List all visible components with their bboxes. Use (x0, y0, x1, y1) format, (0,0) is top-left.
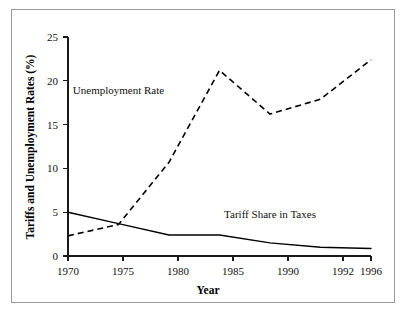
y-tick-label-0: 0 (53, 250, 59, 262)
y-tick-label-5: 5 (53, 206, 59, 218)
y-tick-label-15: 15 (47, 119, 59, 131)
x-axis-title: Year (197, 284, 220, 296)
y-tick-label-20: 20 (47, 75, 59, 87)
x-tick-label-1980: 1980 (167, 265, 190, 277)
y-axis-title: Tariffs and Unemployment Rates (%) (24, 54, 37, 239)
x-tick-label-1970: 1970 (57, 265, 80, 277)
x-tick-label-1996: 1996 (360, 265, 383, 277)
series-annotation-unemployment-rate: Unemployment Rate (73, 84, 164, 96)
y-tick-label-10: 10 (47, 162, 59, 174)
x-tick-label-1975: 1975 (112, 265, 135, 277)
x-tick-label-1990: 1990 (277, 265, 300, 277)
x-axis-ticks (68, 256, 371, 261)
y-tick-label-25: 25 (47, 31, 59, 43)
y-axis-ticks (63, 37, 68, 256)
x-tick-label-1985: 1985 (222, 265, 245, 277)
line-chart-plot: 25 20 15 10 5 0 1970 1975 1980 1985 1990 (12, 10, 396, 304)
series-annotation-tariff-share: Tariff Share in Taxes (224, 208, 316, 220)
series-line-tariff-share (68, 212, 371, 248)
figure-frame: 25 20 15 10 5 0 1970 1975 1980 1985 1990 (11, 9, 395, 303)
chart-page: 25 20 15 10 5 0 1970 1975 1980 1985 1990 (0, 0, 410, 317)
x-tick-label-1992: 1992 (332, 265, 354, 277)
